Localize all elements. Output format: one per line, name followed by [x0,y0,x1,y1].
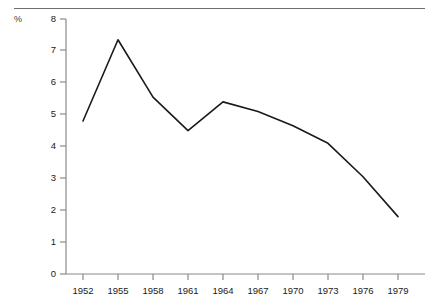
x-tick-label-1955: 1955 [98,285,138,296]
y-tick-label-7: 7 [40,44,56,55]
x-tick-label-1952: 1952 [63,285,103,296]
x-tick-label-1958: 1958 [133,285,173,296]
plot-area [0,0,439,307]
y-tick-label-5: 5 [40,108,56,119]
data-series-line [83,40,398,217]
x-tick-label-1973: 1973 [308,285,348,296]
y-tick-label-1: 1 [40,236,56,247]
y-tick-label-3: 3 [40,172,56,183]
x-axis-ticks [83,274,398,280]
y-axis [60,19,66,274]
y-axis-ticks [60,19,66,274]
x-axis [66,274,425,280]
x-tick-label-1961: 1961 [168,285,208,296]
line-chart: % [0,0,439,307]
y-tick-label-8: 8 [40,13,56,24]
x-tick-label-1976: 1976 [343,285,383,296]
x-tick-label-1970: 1970 [273,285,313,296]
y-tick-label-0: 0 [40,268,56,279]
y-tick-label-4: 4 [40,140,56,151]
x-tick-label-1964: 1964 [203,285,243,296]
y-tick-label-2: 2 [40,204,56,215]
x-tick-label-1967: 1967 [238,285,278,296]
x-tick-label-1979: 1979 [378,285,418,296]
y-tick-label-6: 6 [40,76,56,87]
